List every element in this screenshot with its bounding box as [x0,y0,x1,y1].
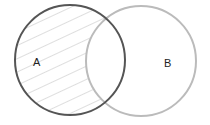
set-a-label: A [33,56,41,68]
venn-diagram: A B [0,0,210,125]
set-b-label: B [164,57,171,69]
